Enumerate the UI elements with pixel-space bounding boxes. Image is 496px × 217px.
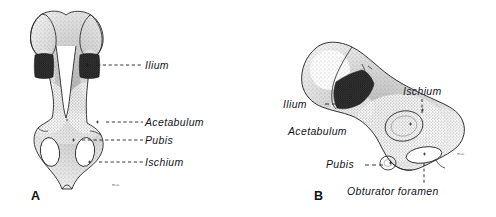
panel-a-artwork bbox=[20, 5, 143, 200]
panel-letter-b: B bbox=[314, 190, 323, 203]
cartilage-band-right bbox=[79, 54, 100, 79]
label-ischium-a: Ischium bbox=[145, 157, 184, 168]
label-pubis-a: Pubis bbox=[145, 135, 173, 146]
label-pubis-b: Pubis bbox=[326, 159, 354, 170]
anatomical-plate: Ilium Acetabulum Pubis Ischium A m.u. Il… bbox=[0, 0, 496, 217]
label-ilium-a: Ilium bbox=[145, 60, 169, 71]
artist-signature-b: m.u. bbox=[457, 152, 465, 156]
artist-signature-a: m.u. bbox=[112, 183, 120, 187]
label-ischium-b: Ischium bbox=[403, 86, 442, 97]
panel-letter-a: A bbox=[31, 190, 40, 203]
label-acetabulum-a: Acetabulum bbox=[145, 117, 204, 128]
panel-b-artwork bbox=[295, 35, 475, 185]
label-acetabulum-b: Acetabulum bbox=[288, 126, 347, 137]
label-ilium-b: Ilium bbox=[283, 99, 307, 110]
label-obturator-foramen-b: Obturator foramen bbox=[347, 186, 439, 197]
cartilage-band-left bbox=[34, 54, 54, 79]
